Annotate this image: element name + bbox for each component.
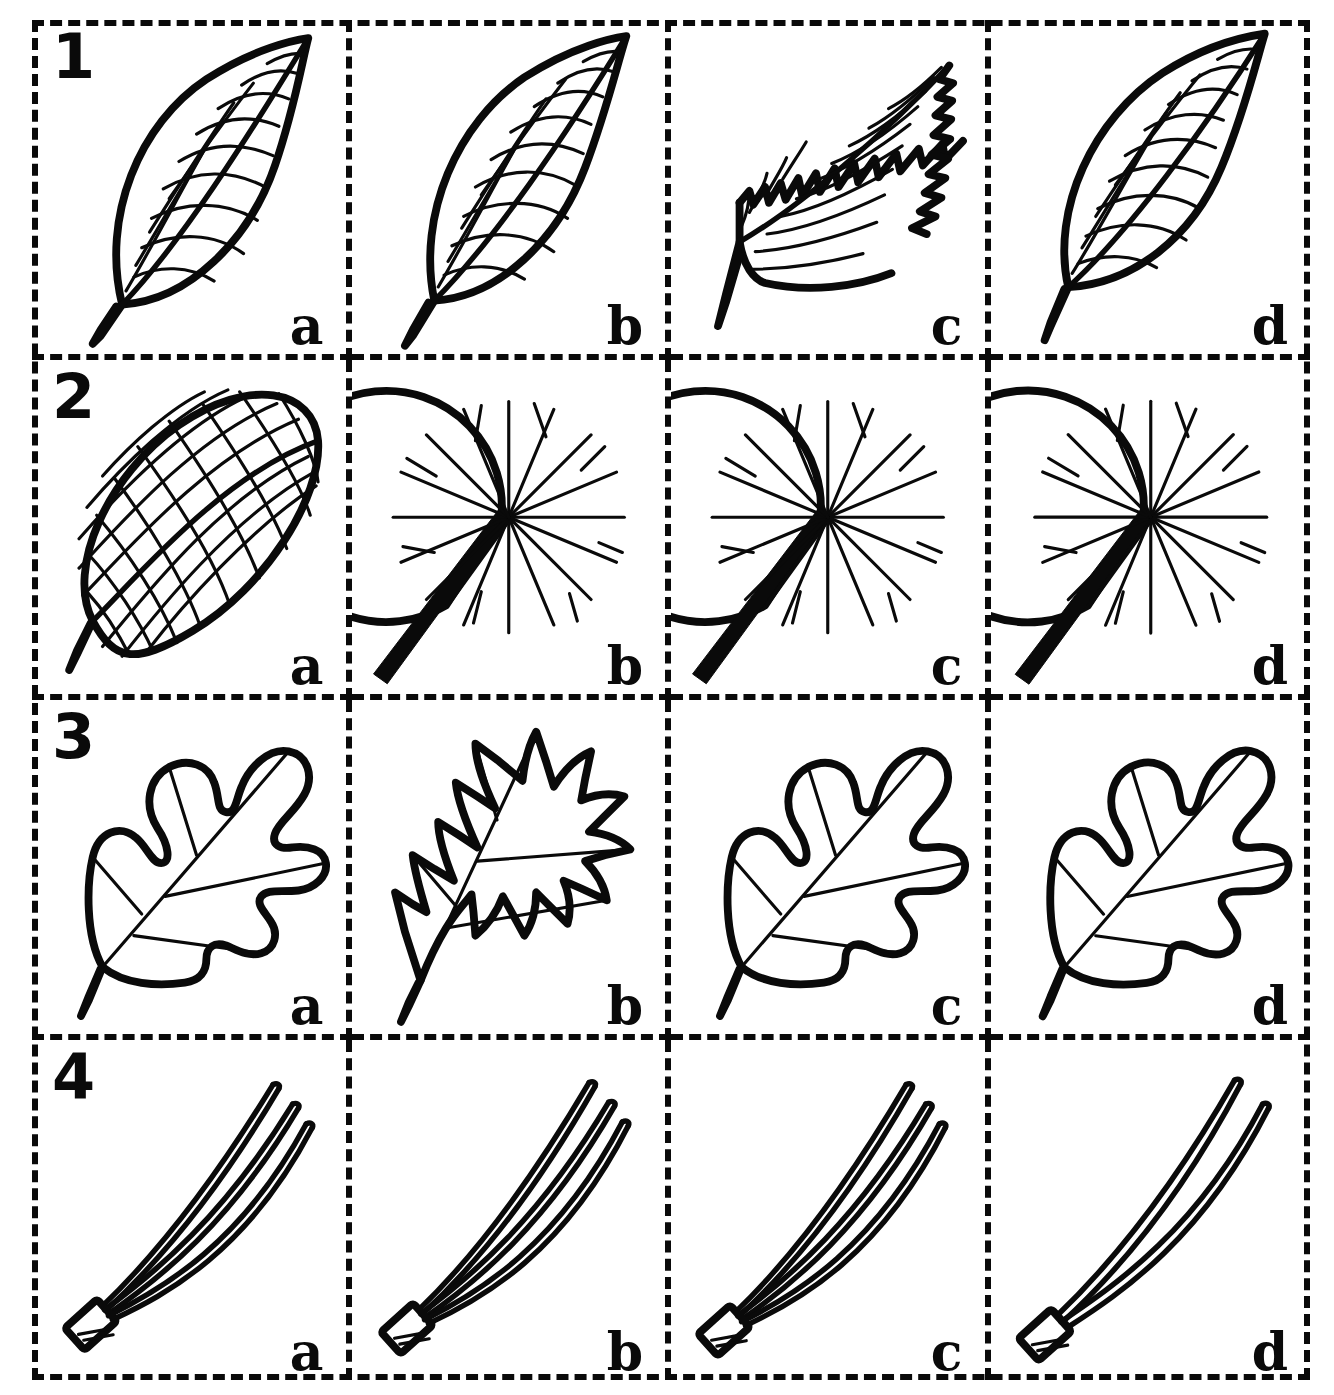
grid-cell-4a[interactable]: 4 a — [32, 1040, 352, 1380]
grid-cell-2d[interactable]: d — [991, 360, 1311, 700]
grid-cell-2c[interactable]: c — [671, 360, 991, 700]
cell-label-4c: c — [931, 1326, 963, 1378]
grid-cell-4c[interactable]: c — [671, 1040, 991, 1380]
grid-cell-2a[interactable]: 2 — [32, 360, 352, 700]
grid-cell-1b[interactable]: b — [352, 20, 672, 360]
cell-label-3d: d — [1252, 980, 1288, 1032]
cell-label-4d: d — [1252, 1326, 1288, 1378]
grid-cell-4d[interactable]: d — [991, 1040, 1311, 1380]
grid-cell-4b[interactable]: b — [352, 1040, 672, 1380]
cell-label-2d: d — [1252, 640, 1288, 692]
grid-cell-3a[interactable]: 3 a — [32, 700, 352, 1040]
cell-label-2b: b — [607, 640, 643, 692]
cell-label-1b: b — [607, 300, 643, 352]
cell-label-3a: a — [290, 980, 324, 1032]
grid-cell-3c[interactable]: c — [671, 700, 991, 1040]
grid-cell-1d[interactable]: d — [991, 20, 1311, 360]
cell-label-4b: b — [607, 1326, 643, 1378]
cell-label-2a: a — [290, 640, 324, 692]
leaf-comparison-grid: 1 a — [32, 20, 1310, 1380]
cell-label-1d: d — [1252, 300, 1288, 352]
cell-label-1a: a — [290, 300, 324, 352]
cell-label-4a: a — [290, 1326, 324, 1378]
cell-label-3b: b — [607, 980, 643, 1032]
grid-cell-1c[interactable]: c — [671, 20, 991, 360]
cell-label-1c: c — [931, 300, 963, 352]
grid-cell-3b[interactable]: b — [352, 700, 672, 1040]
cell-label-2c: c — [931, 640, 963, 692]
grid-cell-3d[interactable]: d — [991, 700, 1311, 1040]
cell-label-3c: c — [931, 980, 963, 1032]
grid-cell-1a[interactable]: 1 a — [32, 20, 352, 360]
grid-cell-2b[interactable]: b — [352, 360, 672, 700]
